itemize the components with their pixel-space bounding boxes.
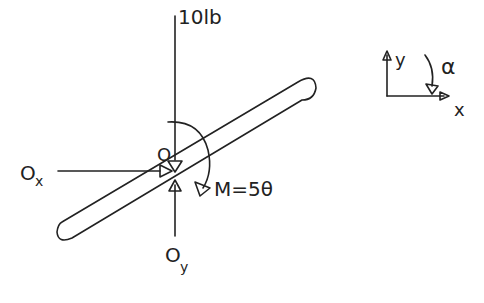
alpha-label: α	[441, 54, 456, 79]
oy-label-sub: y	[180, 259, 188, 275]
ox-force: O x	[20, 161, 172, 189]
moment: M=5θ	[168, 122, 273, 201]
axes-legend: y x α	[383, 49, 465, 120]
y-axis-label: y	[395, 49, 406, 70]
weight-label: 10lb	[178, 5, 222, 29]
oy-force: O y	[165, 180, 188, 275]
weight-force: 10lb	[175, 5, 222, 160]
ox-label-sub: x	[35, 173, 43, 189]
oy-label-main: O	[165, 243, 181, 267]
bar	[57, 78, 316, 240]
x-axis-label: x	[454, 99, 465, 120]
ox-label-main: O	[20, 161, 36, 185]
ox-arrowhead-icon	[160, 165, 172, 177]
moment-label: M=5θ	[214, 177, 273, 201]
alpha-arrowhead-icon	[426, 84, 438, 94]
moment-arrowhead-icon	[195, 182, 210, 196]
free-body-diagram: 10lb O O x O y M=5θ y x α	[0, 0, 484, 303]
